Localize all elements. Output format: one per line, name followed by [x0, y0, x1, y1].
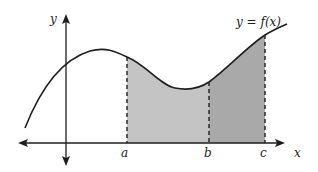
region-b-c [209, 35, 265, 143]
region-a-b [127, 57, 209, 143]
point-a-label: a [121, 146, 128, 160]
y-axis-label: y [49, 12, 57, 26]
curve-label: y = f(x) [235, 15, 281, 29]
point-b-label: b [204, 146, 212, 160]
area-under-curve-diagram: y x a b c y = f(x) [0, 0, 318, 172]
point-c-label: c [260, 146, 267, 160]
x-axis-label: x [294, 146, 301, 160]
